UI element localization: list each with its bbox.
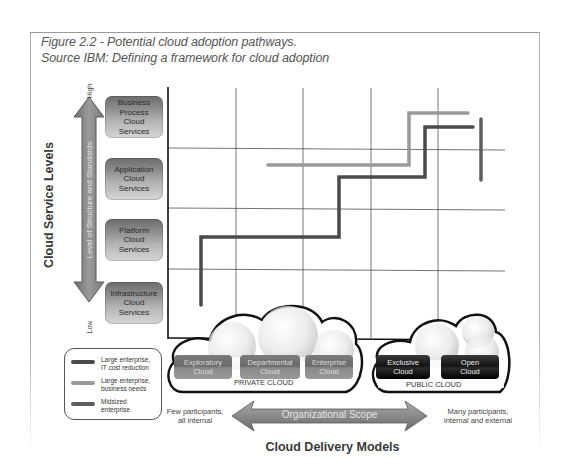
public-cloud-label: PUBLIC CLOUD [406, 380, 461, 389]
series-line-cost-reduction [201, 127, 473, 305]
legend-item-midsized: Midsized enterprise [71, 398, 159, 414]
scope-left-note: Few participants, all internal [160, 407, 230, 425]
model-enterprise-cloud: Enterprise Cloud [305, 355, 353, 379]
scope-right-note: Many participants, internal and external [428, 407, 528, 425]
service-level-platform: Platform Cloud Services [105, 219, 163, 261]
chart-axes [168, 87, 505, 340]
x-axis-title: Cloud Delivery Models [200, 440, 465, 454]
legend-swatch [71, 402, 95, 406]
model-open-cloud: Open Cloud [441, 355, 499, 379]
service-level-business-process: Business Process Cloud Services [105, 96, 163, 138]
service-level-application: Application Cloud Services [105, 158, 163, 200]
private-cloud-label: PRIVATE CLOUD [234, 378, 293, 387]
legend-item-business-needs: Large enterprise, business needs [71, 377, 159, 393]
legend: Large enterprise, IT cost reduction Larg… [64, 348, 162, 420]
legend-swatch [71, 381, 95, 385]
model-exclusive-cloud: Exclusive Cloud [376, 355, 430, 379]
legend-item-cost-reduction: Large enterprise, IT cost reduction [71, 356, 159, 372]
model-departmental-cloud: Departmental Cloud [240, 355, 300, 379]
model-exploratory-cloud: Exploratory Cloud [174, 355, 232, 379]
legend-swatch [71, 360, 95, 364]
service-level-infrastructure: Infrastructure Cloud Services [105, 282, 163, 324]
organizational-scope-label: Organizational Scope [232, 409, 427, 420]
